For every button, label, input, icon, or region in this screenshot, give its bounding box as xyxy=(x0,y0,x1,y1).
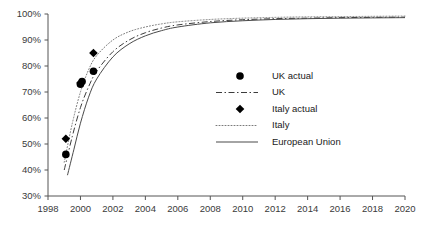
series-line xyxy=(64,16,405,162)
legend-item: UK xyxy=(216,86,286,97)
y-axis-tick-labels: 30%40%50%60%70%80%90%100% xyxy=(17,8,42,201)
y-tick-label: 80% xyxy=(22,60,42,71)
legend-item: Italy xyxy=(216,119,290,130)
x-tick-label: 2016 xyxy=(330,203,351,214)
legend-circle-marker-icon xyxy=(236,72,244,80)
legend-item-label: Italy actual xyxy=(272,103,317,114)
y-tick-label: 30% xyxy=(22,190,42,201)
x-tick-label: 2006 xyxy=(167,203,188,214)
chart-plot: 30%40%50%60%70%80%90%100% 19982000200220… xyxy=(0,0,427,229)
chart-container: 30%40%50%60%70%80%90%100% 19982000200220… xyxy=(0,0,427,229)
x-axis-tick-marks xyxy=(48,196,405,200)
legend-item: Italy actual xyxy=(236,103,318,114)
legend-item-label: UK xyxy=(272,86,286,97)
legend-item-label: Italy xyxy=(272,119,290,130)
legend-diamond-marker-icon xyxy=(236,105,245,114)
data-point-marker xyxy=(90,67,98,75)
x-tick-label: 2020 xyxy=(394,203,415,214)
y-tick-label: 90% xyxy=(22,34,42,45)
y-tick-label: 60% xyxy=(22,112,42,123)
x-tick-label: 2010 xyxy=(232,203,253,214)
legend-item-label: UK actual xyxy=(272,70,313,81)
legend-item: UK actual xyxy=(236,70,313,81)
data-point-marker xyxy=(62,151,70,159)
x-axis-tick-labels: 1998200020022004200620082010201220142016… xyxy=(37,203,415,214)
x-tick-label: 2008 xyxy=(200,203,221,214)
y-tick-label: 100% xyxy=(17,8,42,19)
y-tick-label: 40% xyxy=(22,164,42,175)
x-tick-label: 2002 xyxy=(102,203,123,214)
x-tick-label: 2018 xyxy=(362,203,383,214)
series-line xyxy=(67,18,405,176)
x-tick-label: 2004 xyxy=(135,203,156,214)
chart-series-lines xyxy=(64,16,405,175)
series-line xyxy=(64,17,405,170)
x-tick-label: 1998 xyxy=(37,203,58,214)
y-tick-label: 70% xyxy=(22,86,42,97)
chart-legend: UK actualUKItaly actualItalyEuropean Uni… xyxy=(216,70,341,147)
legend-item: European Union xyxy=(216,136,341,147)
x-tick-label: 2014 xyxy=(297,203,318,214)
chart-series-markers xyxy=(62,49,98,159)
x-tick-label: 2000 xyxy=(70,203,91,214)
y-tick-label: 50% xyxy=(22,138,42,149)
legend-item-label: European Union xyxy=(272,136,341,147)
x-tick-label: 2012 xyxy=(265,203,286,214)
y-axis-tick-marks xyxy=(45,14,49,196)
